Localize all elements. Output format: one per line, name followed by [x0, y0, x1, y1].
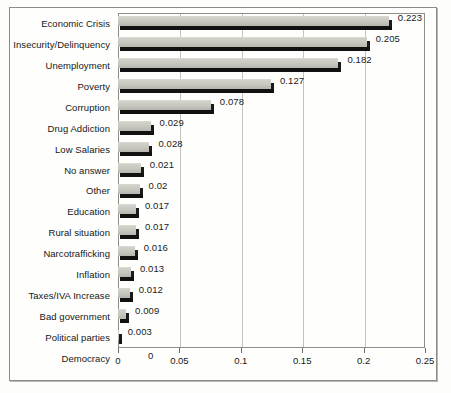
x-tick-label: 0.2	[357, 355, 370, 366]
x-tick	[241, 348, 242, 353]
category-label-low-salaries: Low Salaries	[0, 139, 114, 160]
category-label-other: Other	[0, 181, 114, 202]
category-label-bad-government: Bad government	[0, 306, 114, 327]
bar-chart-figure: 0.2230.2050.1820.1270.0780.0290.0280.021…	[0, 0, 451, 393]
bar[interactable]	[118, 267, 131, 277]
bar-value-label: 0.205	[376, 33, 400, 44]
bar-value-label: 0.009	[135, 305, 159, 316]
bar-row[interactable]: 0.205	[118, 34, 425, 55]
x-tick-label: 0.15	[293, 355, 312, 366]
bar-value-label: 0.012	[139, 284, 163, 295]
x-axis: 00.050.10.150.20.25	[118, 348, 425, 370]
bar-value-label: 0.017	[145, 200, 169, 211]
bar[interactable]	[118, 330, 119, 340]
x-tick	[302, 348, 303, 353]
category-label-economic-crisis: Economic Crisis	[0, 13, 114, 34]
category-label-insecurity-delinquency: Insecurity/Delinquency	[0, 34, 114, 55]
bar[interactable]	[118, 16, 389, 26]
category-label-taxes-iva-increase: Taxes/IVA Increase	[0, 285, 114, 306]
x-tick	[364, 348, 365, 353]
category-label-poverty: Poverty	[0, 76, 114, 97]
bar[interactable]	[118, 184, 140, 194]
bar-row[interactable]: 0.016	[118, 243, 425, 264]
bar-wrapper	[118, 79, 271, 92]
bar-wrapper	[118, 16, 389, 29]
bar-row[interactable]: 0.029	[118, 118, 425, 139]
bar[interactable]	[118, 163, 141, 173]
bar-row[interactable]: 0.017	[118, 201, 425, 222]
x-tick-label: 0.05	[170, 355, 189, 366]
bar[interactable]	[118, 225, 136, 235]
bar-wrapper	[118, 163, 141, 176]
category-label-education: Education	[0, 201, 114, 222]
bar-wrapper	[118, 330, 119, 343]
category-label-no-answer: No answer	[0, 160, 114, 181]
bar-row[interactable]: 0.009	[118, 306, 425, 327]
x-tick-label: 0.25	[416, 355, 435, 366]
bar-value-label: 0.078	[220, 96, 244, 107]
bar[interactable]	[118, 121, 151, 131]
bar-wrapper	[118, 288, 130, 301]
bar-row[interactable]: 0.021	[118, 160, 425, 181]
bar[interactable]	[118, 79, 271, 89]
category-label-corruption: Corruption	[0, 97, 114, 118]
bar-row[interactable]: 0.223	[118, 13, 425, 34]
category-label-democracy: Democracy	[0, 348, 114, 369]
x-tick	[118, 348, 119, 353]
bar[interactable]	[118, 100, 211, 110]
bar-row[interactable]: 0.012	[118, 285, 425, 306]
bar[interactable]	[118, 204, 136, 214]
bar-row[interactable]: 0.028	[118, 139, 425, 160]
bar[interactable]	[118, 142, 149, 152]
category-label-unemployment: Unemployment	[0, 55, 114, 76]
category-label-rural-situation: Rural situation	[0, 222, 114, 243]
bar-value-label: 0.028	[158, 138, 182, 149]
bar-wrapper	[118, 225, 136, 238]
bar-wrapper	[118, 267, 131, 280]
bar-wrapper	[118, 142, 149, 155]
x-tick	[179, 348, 180, 353]
bar-wrapper	[118, 309, 126, 322]
bars-container: 0.2230.2050.1820.1270.0780.0290.0280.021…	[118, 13, 425, 348]
bar-wrapper	[118, 37, 367, 50]
bar-value-label: 0.127	[280, 75, 304, 86]
bar-wrapper	[118, 204, 136, 217]
category-label-political-parties: Political parties	[0, 327, 114, 348]
x-tick	[425, 348, 426, 353]
category-label-drug-addiction: Drug Addiction	[0, 118, 114, 139]
bar-wrapper	[118, 100, 211, 113]
bar-value-label: 0.182	[347, 54, 371, 65]
bar-value-label: 0.003	[128, 326, 152, 337]
bar-value-label: 0.016	[144, 242, 168, 253]
bar-row[interactable]: 0.02	[118, 181, 425, 202]
bar-row[interactable]: 0.078	[118, 97, 425, 118]
bar-wrapper	[118, 246, 135, 259]
bar-row[interactable]: 0.017	[118, 222, 425, 243]
bar[interactable]	[118, 58, 338, 68]
bar[interactable]	[118, 288, 130, 298]
bar[interactable]	[118, 246, 135, 256]
bar-value-label: 0.02	[149, 180, 168, 191]
bar-value-label: 0.013	[140, 263, 164, 274]
x-tick-label: 0.1	[234, 355, 247, 366]
bar-value-label: 0.029	[160, 117, 184, 128]
bar-value-label: 0.017	[145, 221, 169, 232]
bar-row[interactable]: 0.182	[118, 55, 425, 76]
bar-wrapper	[118, 121, 151, 134]
x-tick-label: 0	[115, 355, 120, 366]
category-label-narcotrafficking: Narcotrafficking	[0, 243, 114, 264]
category-axis-labels: Economic CrisisInsecurity/DelinquencyUne…	[0, 13, 114, 348]
bar-row[interactable]: 0.013	[118, 264, 425, 285]
bar-wrapper	[118, 58, 338, 71]
bar-row[interactable]: 0.127	[118, 76, 425, 97]
category-label-inflation: Inflation	[0, 264, 114, 285]
bar-value-label: 0.021	[150, 159, 174, 170]
bar-wrapper	[118, 184, 140, 197]
bar-row[interactable]: 0.003	[118, 327, 425, 348]
bar-value-label: 0.223	[398, 12, 422, 23]
bar[interactable]	[118, 37, 367, 47]
bar[interactable]	[118, 309, 126, 319]
